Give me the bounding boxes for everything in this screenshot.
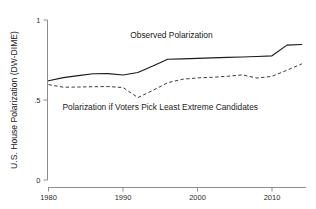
x-axis: 1980 1990 2000 2010 (40, 188, 306, 203)
chart-svg: U.S. House Polarization (DW-DIME) 1 .5 0… (0, 0, 316, 209)
counterfactual-polarization-annotation: Polarization if Voters Pick Least Extrem… (62, 102, 258, 112)
y-axis-title: U.S. House Polarization (DW-DIME) (9, 31, 19, 169)
observed-polarization-annotation: Observed Polarization (130, 30, 213, 40)
x-tick-label-1980: 1980 (40, 193, 57, 202)
chart-figure: U.S. House Polarization (DW-DIME) 1 .5 0… (0, 0, 316, 209)
x-tick-label-2010: 2010 (264, 193, 281, 202)
plot-area (49, 44, 302, 97)
x-tick-label-2000: 2000 (189, 193, 206, 202)
y-tick-label-05: .5 (34, 96, 40, 105)
x-tick-label-1990: 1990 (115, 193, 132, 202)
y-axis: 1 .5 0 (34, 16, 47, 185)
series-observed-polarization (49, 44, 302, 80)
y-tick-label-0: 0 (36, 176, 40, 185)
y-tick-label-1: 1 (36, 16, 40, 25)
series-counterfactual-polarization (49, 64, 302, 98)
